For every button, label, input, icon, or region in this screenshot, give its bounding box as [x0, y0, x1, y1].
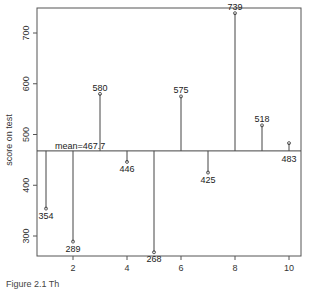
data-stems: 354289580446268575425739518483 — [38, 2, 296, 264]
data-point: 518 — [254, 114, 269, 151]
value-label: 483 — [281, 154, 296, 164]
mean-line: mean=467.7 — [37, 141, 301, 151]
data-point: 483 — [281, 142, 296, 164]
value-label: 575 — [173, 85, 188, 95]
data-point: 446 — [119, 151, 134, 174]
x-tick-label: 6 — [178, 263, 183, 273]
x-tick-label: 4 — [124, 263, 129, 273]
value-label: 354 — [38, 211, 53, 221]
y-tick-label: 700 — [21, 25, 31, 40]
value-label: 425 — [200, 175, 215, 185]
value-label: 518 — [254, 114, 269, 124]
y-tick-label: 500 — [21, 127, 31, 142]
value-label: 580 — [92, 83, 107, 93]
value-label: 739 — [227, 2, 242, 12]
data-point: 575 — [173, 85, 188, 150]
y-tick-label: 400 — [21, 178, 31, 193]
data-point: 739 — [227, 2, 242, 151]
x-axis: 246810 — [70, 256, 294, 273]
y-tick-label: 600 — [21, 76, 31, 91]
figure-caption: Figure 2.1 Th — [6, 279, 59, 289]
value-label: 268 — [146, 254, 161, 264]
x-tick-label: 2 — [70, 263, 75, 273]
data-point: 289 — [65, 151, 80, 254]
mean-label: mean=467.7 — [55, 141, 105, 151]
y-tick-label: 300 — [21, 228, 31, 243]
x-tick-label: 10 — [284, 263, 294, 273]
y-axis-label: score on test — [4, 114, 14, 166]
value-label: 289 — [65, 244, 80, 254]
y-axis: 300400500600700 — [21, 25, 37, 243]
data-point: 268 — [146, 151, 161, 264]
data-point: 354 — [38, 151, 53, 221]
plot-frame — [37, 8, 301, 256]
data-point: 425 — [200, 151, 215, 185]
x-tick-label: 8 — [232, 263, 237, 273]
value-label: 446 — [119, 164, 134, 174]
